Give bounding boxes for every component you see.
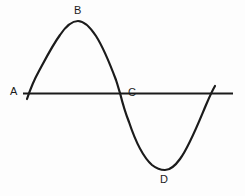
point-label-d: D (160, 174, 168, 185)
point-label-b: B (74, 5, 81, 16)
sine-wave-figure: A B C D (0, 0, 245, 196)
point-label-c: C (128, 87, 136, 98)
sine-wave-canvas (0, 0, 245, 196)
point-label-a: A (10, 86, 17, 97)
